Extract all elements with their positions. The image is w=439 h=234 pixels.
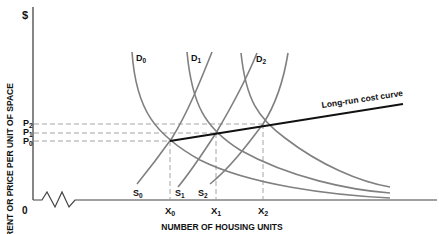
d1-label: D1 [191, 53, 202, 64]
s2-label: S2 [198, 188, 208, 199]
x2-label: X2 [258, 205, 268, 217]
d2-label: D2 [256, 54, 267, 65]
s1-label: S1 [175, 188, 185, 199]
supply-curve-s0 [137, 52, 212, 184]
guide-lines [34, 124, 263, 200]
d0-label: D0 [136, 53, 147, 64]
x-axis-with-break [33, 192, 437, 207]
x1-label: X1 [211, 205, 221, 217]
x-axis-title: NUMBER OF HOUSING UNITS [161, 222, 283, 232]
y-axis-title: RENT OR PRICE PER UNIT OF SPACE [5, 83, 15, 234]
x0-label: X0 [165, 205, 175, 217]
s0-label: S0 [133, 188, 143, 199]
demand-curves [132, 52, 390, 198]
axes [33, 7, 437, 207]
long-run-cost-curve [170, 104, 403, 141]
supply-curves [137, 52, 288, 187]
origin-label: 0 [22, 205, 28, 216]
housing-market-chart: $ 0 RENT OR PRICE PER UNIT OF SPACE NUMB… [0, 0, 439, 234]
y-axis-top-label: $ [22, 9, 28, 21]
